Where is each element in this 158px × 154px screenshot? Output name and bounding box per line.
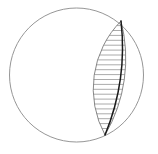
figure-background xyxy=(0,0,158,154)
figure-container xyxy=(0,0,158,154)
lens-in-circle-figure xyxy=(0,0,158,154)
